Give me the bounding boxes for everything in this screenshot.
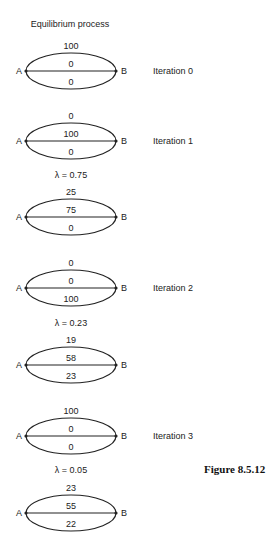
node-b-label: B — [121, 66, 127, 76]
network-diagram-iter2: AB00100Iteration 2 — [16, 258, 193, 306]
bottom-route-flow: 22 — [66, 519, 76, 529]
network-diagram-iter1-result: AB25750 — [16, 187, 127, 235]
middle-route-flow: 0 — [68, 276, 73, 286]
top-route-flow: 19 — [66, 335, 76, 345]
top-route-flow: 0 — [68, 258, 73, 268]
iteration-label: Iteration 0 — [153, 66, 193, 76]
node-a-label: A — [16, 283, 22, 293]
lambda-step-label: λ = 0.23 — [55, 318, 87, 328]
middle-route-flow: 0 — [68, 59, 73, 69]
node-a-label: A — [16, 66, 22, 76]
middle-route-flow: 100 — [63, 129, 78, 139]
node-a-dot — [24, 139, 27, 142]
bottom-route-flow: 0 — [68, 147, 73, 157]
top-route-flow: 25 — [66, 187, 76, 197]
network-diagram-iter0: AB10000Iteration 0 — [16, 41, 193, 89]
iteration-label: Iteration 1 — [153, 136, 193, 146]
node-a-label: A — [16, 431, 22, 441]
iteration-label: Iteration 3 — [153, 431, 193, 441]
node-b-label: B — [121, 283, 127, 293]
network-diagram-iter1: AB01000Iteration 1 — [16, 111, 193, 159]
node-b-label: B — [121, 360, 127, 370]
top-route-flow: 100 — [63, 406, 78, 416]
node-a-label: A — [16, 212, 22, 222]
node-b-label: B — [121, 136, 127, 146]
node-b-dot — [114, 286, 117, 289]
node-a-dot — [24, 69, 27, 72]
node-b-dot — [114, 434, 117, 437]
node-a-dot — [24, 363, 27, 366]
node-b-dot — [114, 363, 117, 366]
node-b-label: B — [121, 212, 127, 222]
middle-route-flow: 75 — [66, 205, 76, 215]
bottom-route-flow: 100 — [63, 294, 78, 304]
equilibrium-diagram-canvas: Equilibrium process AB10000Iteration 0AB… — [0, 0, 276, 554]
network-diagram-iter3: AB10000Iteration 3 — [16, 406, 193, 454]
node-a-label: A — [16, 360, 22, 370]
network-diagram-iter3-result: AB235522 — [16, 483, 127, 531]
node-a-dot — [24, 286, 27, 289]
node-a-dot — [24, 434, 27, 437]
top-route-flow: 100 — [63, 41, 78, 51]
node-b-label: B — [121, 431, 127, 441]
node-a-dot — [24, 511, 27, 514]
lambda-step-label: λ = 0.75 — [55, 170, 87, 180]
middle-route-flow: 58 — [66, 353, 76, 363]
lambda-step-label: λ = 0.05 — [55, 465, 87, 475]
middle-route-flow: 55 — [66, 501, 76, 511]
node-b-dot — [114, 511, 117, 514]
node-b-dot — [114, 69, 117, 72]
diagram-title: Equilibrium process — [31, 19, 110, 29]
middle-route-flow: 0 — [68, 424, 73, 434]
node-b-dot — [114, 215, 117, 218]
bottom-route-flow: 0 — [68, 442, 73, 452]
bottom-route-flow: 0 — [68, 77, 73, 87]
node-a-label: A — [16, 136, 22, 146]
bottom-route-flow: 23 — [66, 371, 76, 381]
node-a-dot — [24, 215, 27, 218]
node-b-label: B — [121, 508, 127, 518]
network-diagram-iter2-result: AB195823 — [16, 335, 127, 383]
top-route-flow: 0 — [68, 111, 73, 121]
node-a-label: A — [16, 508, 22, 518]
figure-label: Figure 8.5.12 — [204, 463, 266, 475]
bottom-route-flow: 0 — [68, 223, 73, 233]
node-b-dot — [114, 139, 117, 142]
iteration-label: Iteration 2 — [153, 283, 193, 293]
top-route-flow: 23 — [66, 483, 76, 493]
